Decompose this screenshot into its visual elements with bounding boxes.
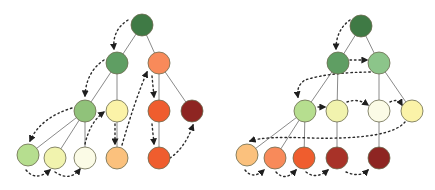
traversal-arrow <box>250 122 405 141</box>
tree-node-k <box>106 147 128 169</box>
tree-node-c <box>148 52 170 74</box>
depth-first-tree <box>17 14 203 176</box>
tree-node-j <box>293 147 315 169</box>
traversal-arrow <box>152 124 154 144</box>
traversal-arrow <box>170 125 193 158</box>
tree-node-e <box>326 100 348 122</box>
tree-node-g <box>181 100 203 122</box>
tree-node-f <box>368 100 390 122</box>
tree-edges <box>28 25 192 158</box>
tree-node-j <box>74 147 96 169</box>
tree-node-l <box>148 147 170 169</box>
tree-node-h <box>236 144 258 166</box>
tree-node-f <box>148 100 170 122</box>
traversal-arrow <box>30 108 72 141</box>
tree-node-a <box>131 14 153 36</box>
tree-node-i <box>264 147 286 169</box>
tree-node-b <box>327 52 349 74</box>
traversal-arrow <box>390 101 402 105</box>
traversal-arrow <box>276 170 296 177</box>
tree-node-d <box>294 100 316 122</box>
tree-node-k <box>326 147 348 169</box>
breadth-first-tree <box>236 15 423 177</box>
traversal-arrow <box>346 170 368 175</box>
traversal-arrow <box>347 101 368 105</box>
traversal-arrow <box>298 72 375 97</box>
tree-node-i <box>44 147 66 169</box>
traversal-arrow <box>245 170 264 175</box>
traversal-arrow <box>55 169 80 176</box>
tree-nodes <box>17 14 203 169</box>
traversal-arrow <box>306 170 328 176</box>
tree-node-d <box>74 100 96 122</box>
traversal-arrow <box>85 60 104 96</box>
tree-nodes <box>236 15 423 169</box>
tree-node-e <box>106 100 128 122</box>
tree-node-a <box>350 15 372 37</box>
traversal-arrow <box>152 76 154 97</box>
traversal-arrow <box>336 20 350 49</box>
tree-node-h <box>17 144 39 166</box>
tree-node-l <box>368 147 390 169</box>
traversal-arrow <box>26 170 50 176</box>
traversal-arrow <box>114 20 128 49</box>
tree-node-b <box>106 52 128 74</box>
tree-node-g <box>401 100 423 122</box>
tree-node-c <box>368 52 390 74</box>
diagram-svg <box>0 0 435 190</box>
tree-traversal-diagram <box>0 0 435 190</box>
